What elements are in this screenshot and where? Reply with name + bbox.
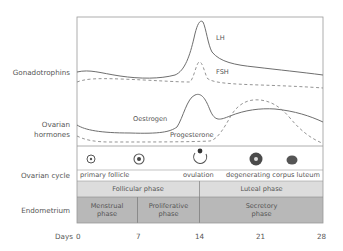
fsh-label: FSH xyxy=(216,68,229,76)
secondary-follicle-icon xyxy=(134,154,144,164)
tick-day-0: 0 xyxy=(76,232,81,241)
degenerating-corpus-luteum-icon xyxy=(287,156,298,165)
cycle-diagram xyxy=(0,0,343,251)
tick-day-7: 7 xyxy=(136,232,141,241)
tick-day-21: 21 xyxy=(256,232,265,241)
oestrogen-label: Oestrogen xyxy=(133,115,167,123)
ovulation-label: ovulation xyxy=(183,171,214,179)
lh-label: LH xyxy=(216,34,225,42)
tick-day-14: 14 xyxy=(195,232,204,241)
ovulation-icon xyxy=(194,149,207,164)
progesterone-label: Progesterone xyxy=(170,131,214,139)
primary-follicle-label: primary follicle xyxy=(80,171,129,179)
diagram-frame xyxy=(77,17,323,223)
tick-day-28: 28 xyxy=(317,232,326,241)
degenerating-corpus-luteum-label: degenerating corpus luteum xyxy=(226,171,320,179)
corpus-luteum-icon xyxy=(250,153,263,166)
lh-curve xyxy=(77,21,323,78)
primary-follicle-icon xyxy=(87,155,95,163)
